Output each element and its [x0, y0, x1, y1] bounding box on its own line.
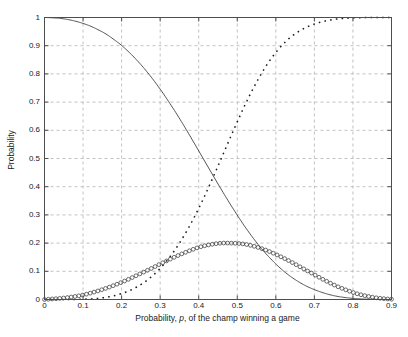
- y-tick-label: 0.1: [14, 267, 40, 275]
- y-tick-label: 0.6: [14, 126, 40, 134]
- x-tick-label: 0.5: [225, 302, 249, 310]
- figure: 00.10.20.30.40.50.60.70.80.91 00.10.20.3…: [0, 0, 408, 337]
- y-tick-label: 0.4: [14, 183, 40, 191]
- y-axis-label: Probability: [6, 115, 16, 185]
- x-tick-label: 0.2: [110, 302, 134, 310]
- gridlines: [45, 18, 392, 300]
- y-tick-label: 0.2: [14, 239, 40, 247]
- x-tick-label: 0.3: [148, 302, 172, 310]
- y-tick-label: 0.5: [14, 155, 40, 163]
- y-tick-label: 0.8: [14, 70, 40, 78]
- x-tick-label: 0.9: [380, 302, 404, 310]
- x-axis-label: Probability, p, of the champ winning a g…: [44, 313, 391, 323]
- xlabel-post: , of the champ winning a game: [184, 313, 300, 323]
- y-tick-label: 1: [14, 14, 40, 22]
- x-tick-label: 0.8: [341, 302, 365, 310]
- y-tick-label: 0.7: [14, 98, 40, 106]
- x-tick-label: 0.6: [264, 302, 288, 310]
- y-axis-tick-labels: 00.10.20.30.40.50.60.70.80.91: [12, 0, 40, 337]
- xlabel-pre: Probability,: [135, 313, 179, 323]
- chart-canvas: [0, 0, 408, 337]
- data-series: [43, 17, 394, 301]
- x-tick-label: 0.1: [71, 302, 95, 310]
- x-tick-label: 0: [33, 302, 57, 310]
- x-tick-label: 0.4: [187, 302, 211, 310]
- y-tick-label: 0.3: [14, 211, 40, 219]
- y-tick-label: 0.9: [14, 42, 40, 50]
- x-tick-label: 0.7: [302, 302, 326, 310]
